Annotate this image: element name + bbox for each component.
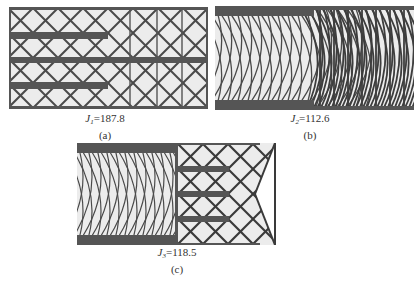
- panel-a-structure: [9, 7, 208, 109]
- lattice-structure-c: [77, 143, 277, 245]
- panel-a-caption: J1=187.8 (a): [75, 112, 135, 142]
- panel-c-caption: J3=118.5 (c): [147, 246, 207, 276]
- panel-c-structure: [77, 143, 277, 245]
- objective-value-b: J2=112.6: [280, 112, 340, 129]
- objective-value-c: J3=118.5: [147, 246, 207, 263]
- lattice-structure-a: [9, 7, 208, 109]
- objective-value-a: J1=187.8: [75, 112, 135, 129]
- panel-label-b: (b): [280, 129, 340, 142]
- lattice-structure-b: [215, 6, 414, 110]
- panel-label-a: (a): [75, 129, 135, 142]
- panel-b-caption: J2=112.6 (b): [280, 112, 340, 142]
- panel-label-c: (c): [147, 263, 207, 276]
- panel-b-structure: [215, 6, 414, 110]
